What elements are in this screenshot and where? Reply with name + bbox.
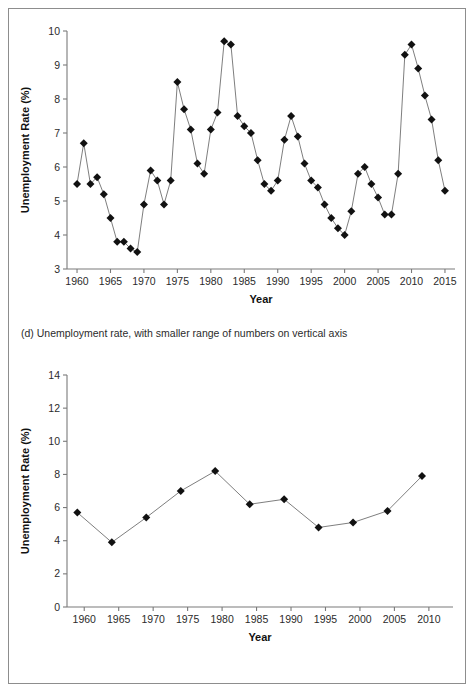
figure-frame: 3456789101960196519701975198019851990199… [8, 8, 466, 684]
y-tick-label: 9 [54, 59, 60, 71]
y-tick-label: 12 [48, 402, 60, 414]
x-tick-label: 1995 [314, 613, 338, 625]
x-tick-label: 1970 [132, 275, 156, 287]
y-tick-label: 7 [54, 127, 60, 139]
y-tick-label: 4 [54, 534, 60, 546]
data-point-marker [374, 194, 382, 202]
x-tick-label: 2010 [417, 613, 441, 625]
x-tick-label: 2000 [333, 275, 357, 287]
data-point-marker [207, 126, 215, 134]
x-tick-label: 1960 [73, 613, 97, 625]
data-point-marker [187, 126, 195, 134]
x-tick-label: 2015 [433, 275, 457, 287]
data-point-marker [214, 109, 222, 117]
y-tick-label: 5 [54, 195, 60, 207]
data-point-marker [254, 156, 262, 164]
y-axis-title: Unemployment Rate (%) [19, 86, 31, 213]
data-point-marker [294, 132, 302, 140]
data-point-marker [133, 248, 141, 256]
x-tick-label: 2010 [400, 275, 424, 287]
x-axis-title: Year [249, 293, 273, 305]
x-tick-label: 1975 [176, 613, 200, 625]
data-point-marker [321, 200, 329, 208]
data-point-marker [140, 200, 148, 208]
data-point-marker [387, 211, 395, 219]
data-point-marker [180, 105, 188, 113]
data-point-marker [287, 112, 295, 120]
x-tick-label: 1985 [245, 613, 269, 625]
y-tick-label: 8 [54, 93, 60, 105]
x-tick-label: 1990 [266, 275, 290, 287]
data-point-marker [401, 51, 409, 59]
data-point-marker [408, 41, 416, 49]
chart-panel-d: 3456789101960196519701975198019851990199… [9, 9, 465, 347]
y-tick-label: 4 [54, 229, 60, 241]
data-point-marker [394, 170, 402, 178]
data-point-marker [428, 115, 436, 123]
data-point-marker [274, 177, 282, 185]
x-tick-label: 1985 [233, 275, 257, 287]
x-tick-label: 1960 [65, 275, 89, 287]
y-tick-label: 2 [54, 567, 60, 579]
x-tick-label: 1980 [210, 613, 234, 625]
caption-d: (d) Unemployment rate, with smaller rang… [21, 327, 347, 339]
data-point-marker [73, 180, 81, 188]
chart-d-svg: 3456789101960196519701975198019851990199… [9, 9, 467, 325]
data-point-marker [421, 92, 429, 100]
x-tick-label: 2000 [348, 613, 372, 625]
data-series-line [77, 41, 445, 252]
data-point-marker [434, 156, 442, 164]
y-tick-label: 10 [48, 25, 60, 37]
data-point-marker [106, 214, 114, 222]
data-point-marker [280, 136, 288, 144]
y-tick-label: 6 [54, 161, 60, 173]
data-point-marker [142, 514, 150, 522]
x-tick-label: 2005 [366, 275, 390, 287]
data-point-marker [300, 160, 308, 168]
data-point-marker [441, 187, 449, 195]
y-tick-label: 10 [48, 435, 60, 447]
y-tick-label: 6 [54, 501, 60, 513]
y-tick-label: 8 [54, 468, 60, 480]
y-tick-label: 14 [48, 369, 60, 381]
chart-e-svg: 0246810121419601965197019751980198519901… [9, 347, 467, 663]
data-point-marker [347, 207, 355, 215]
x-tick-label: 1995 [299, 275, 323, 287]
x-tick-label: 1970 [141, 613, 165, 625]
x-tick-label: 1990 [279, 613, 303, 625]
data-point-marker [147, 166, 155, 174]
chart-panel-e: 0246810121419601965197019751980198519901… [9, 347, 465, 685]
data-point-marker [177, 487, 185, 495]
x-tick-label: 1965 [107, 613, 131, 625]
y-axis-title: Unemployment Rate (%) [19, 427, 31, 554]
x-tick-label: 1980 [199, 275, 223, 287]
data-point-marker [80, 139, 88, 147]
x-tick-label: 1965 [99, 275, 123, 287]
data-point-marker [160, 200, 168, 208]
data-point-marker [200, 170, 208, 178]
data-point-marker [227, 41, 235, 49]
data-point-marker [367, 180, 375, 188]
data-point-marker [349, 518, 357, 526]
data-point-marker [153, 177, 161, 185]
data-point-marker [193, 160, 201, 168]
data-point-marker [414, 64, 422, 72]
x-tick-label: 1975 [166, 275, 190, 287]
data-point-marker [100, 190, 108, 198]
data-point-marker [167, 177, 175, 185]
y-tick-label: 3 [54, 263, 60, 275]
data-point-marker [220, 37, 228, 45]
y-tick-label: 0 [54, 601, 60, 613]
x-axis-title: Year [248, 631, 272, 643]
data-point-marker [327, 214, 335, 222]
data-point-marker [234, 112, 242, 120]
data-point-marker [173, 78, 181, 86]
x-tick-label: 2005 [383, 613, 407, 625]
